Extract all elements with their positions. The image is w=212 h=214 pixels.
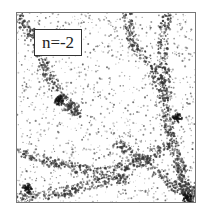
panel-label: n=-2 xyxy=(34,29,82,56)
